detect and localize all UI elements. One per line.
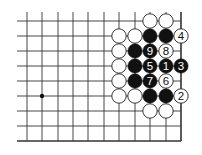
black-stone-9: 9 [143, 44, 157, 58]
white-stone-circle [112, 89, 126, 103]
stones: 498513762 [112, 14, 188, 118]
black-stone-5: 5 [143, 59, 157, 73]
move-number: 6 [163, 75, 169, 87]
black-stone-circle [128, 74, 142, 88]
black-stone-circle [128, 59, 142, 73]
white-stone-circle [143, 14, 157, 28]
black-stone [128, 44, 142, 58]
move-number: 4 [178, 30, 185, 42]
white-stone [159, 104, 173, 118]
white-stone-circle [143, 104, 157, 118]
black-stone [143, 89, 157, 103]
white-stone-2: 2 [174, 89, 188, 103]
black-stone [143, 29, 157, 43]
white-stone-circle [112, 74, 126, 88]
white-stone [143, 104, 157, 118]
white-stone [112, 29, 126, 43]
black-stone [159, 29, 173, 43]
move-number: 5 [147, 60, 153, 72]
move-number: 7 [147, 75, 153, 87]
white-stone-8: 8 [159, 44, 173, 58]
grid-lines [17, 12, 181, 141]
white-stone-4: 4 [174, 29, 188, 43]
white-stone-circle [159, 14, 173, 28]
move-number: 1 [163, 60, 169, 72]
move-number: 8 [163, 45, 169, 57]
move-number: 9 [147, 45, 153, 57]
black-stone-circle [128, 44, 142, 58]
white-stone-circle [159, 104, 173, 118]
white-stone-circle [112, 44, 126, 58]
black-stone [159, 89, 173, 103]
black-stone-7: 7 [143, 74, 157, 88]
move-number: 3 [178, 60, 184, 72]
go-board: 498513762 [0, 0, 202, 155]
white-stone [143, 14, 157, 28]
black-stone-3: 3 [174, 59, 188, 73]
white-stone [112, 74, 126, 88]
white-stone-circle [112, 29, 126, 43]
white-stone [159, 14, 173, 28]
black-stone-circle [143, 89, 157, 103]
star-point [40, 94, 44, 98]
white-stone-circle [128, 29, 142, 43]
black-stone [128, 59, 142, 73]
white-stone [128, 29, 142, 43]
black-stone-circle [159, 29, 173, 43]
black-stone-circle [143, 29, 157, 43]
black-stone-circle [159, 89, 173, 103]
white-stone-circle [128, 89, 142, 103]
white-stone [112, 89, 126, 103]
white-stone [112, 44, 126, 58]
black-stone [128, 74, 142, 88]
white-stone [112, 59, 126, 73]
black-stone-1: 1 [159, 59, 173, 73]
white-stone [128, 89, 142, 103]
move-number: 2 [178, 90, 184, 102]
white-stone-circle [112, 59, 126, 73]
white-stone-6: 6 [159, 74, 173, 88]
star-points [40, 94, 44, 98]
